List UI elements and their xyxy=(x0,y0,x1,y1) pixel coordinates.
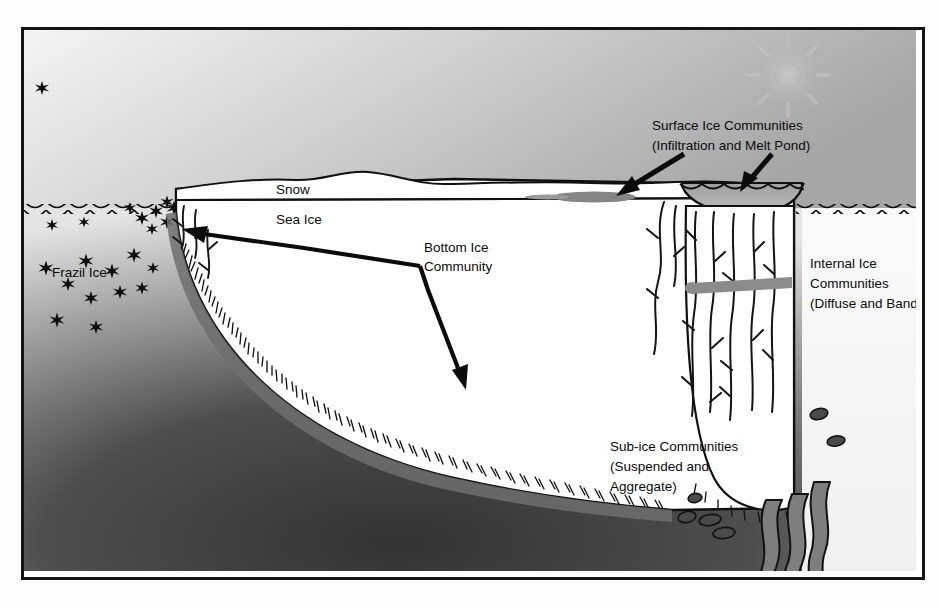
sea-ice-label: Sea Ice xyxy=(276,212,322,227)
sub-ice-label-line1: Sub-ice Communities xyxy=(610,439,739,454)
internal-band-left-cap xyxy=(685,282,699,294)
figure-stage: Snow Sea Ice Frazil Ice Bottom Ice Commu… xyxy=(0,0,939,609)
bottom-ice-label-line1: Bottom Ice xyxy=(424,240,489,255)
sea-ice-diagram: Snow Sea Ice Frazil Ice Bottom Ice Commu… xyxy=(24,30,916,571)
internal-ice-label-line1: Internal Ice xyxy=(810,256,877,271)
snow-label: Snow xyxy=(276,182,310,197)
surface-ice-label-line2: (Infiltration and Melt Pond) xyxy=(652,138,810,153)
sun-icon xyxy=(747,34,829,116)
frazil-ice-label: Frazil Ice xyxy=(52,265,107,280)
internal-ice-label-line3: (Diffuse and Band) xyxy=(810,296,916,311)
sub-ice-label-line3: Aggregate) xyxy=(610,479,677,494)
sub-ice-label-line2: (Suspended and xyxy=(610,459,709,474)
infiltration-layer-tail xyxy=(525,194,569,199)
surface-ice-label-line1: Surface Ice Communities xyxy=(652,118,803,133)
diagram-frame: Snow Sea Ice Frazil Ice Bottom Ice Commu… xyxy=(21,27,925,580)
internal-ice-label-line2: Communities xyxy=(810,276,889,291)
bottom-ice-label-line2: Community xyxy=(424,259,493,274)
